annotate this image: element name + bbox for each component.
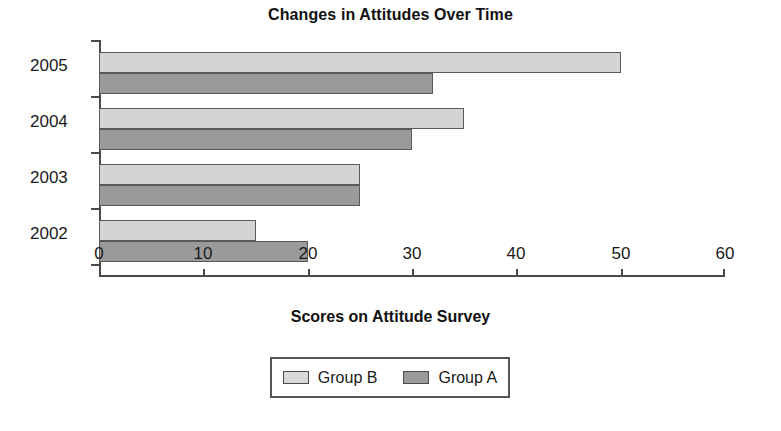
chart-title: Changes in Attitudes Over Time — [0, 6, 781, 24]
bar-2003-group-b — [99, 164, 360, 185]
x-tick-label-10: 10 — [173, 244, 233, 264]
plot-area — [99, 40, 725, 277]
x-axis-tick — [723, 269, 725, 277]
x-tick-label-30: 30 — [382, 244, 442, 264]
legend-swatch-group-b — [283, 371, 309, 384]
chart-legend: Group B Group A — [270, 357, 510, 398]
x-axis-tick — [412, 269, 414, 277]
bar-2004-group-a — [99, 129, 412, 150]
y-axis-tick — [91, 40, 100, 42]
y-category-label-2005: 2005 — [30, 56, 90, 76]
legend-label-group-a: Group A — [438, 369, 497, 387]
bar-2005-group-a — [99, 73, 433, 94]
x-axis-tick — [99, 269, 101, 277]
x-tick-label-20: 20 — [278, 244, 338, 264]
legend-label-group-b: Group B — [318, 369, 378, 387]
x-tick-label-0: 0 — [69, 244, 129, 264]
y-category-label-2002: 2002 — [30, 224, 90, 244]
bar-2004-group-b — [99, 108, 464, 129]
x-axis-tick — [308, 269, 310, 277]
x-tick-label-40: 40 — [486, 244, 546, 264]
y-axis-tick — [91, 152, 100, 154]
y-category-label-2003: 2003 — [30, 168, 90, 188]
bar-2002-group-b — [99, 220, 256, 241]
y-axis-tick — [91, 208, 100, 210]
y-axis-tick — [91, 96, 100, 98]
x-axis-tick — [621, 269, 623, 277]
x-axis-tick — [516, 269, 518, 277]
x-axis-title: Scores on Attitude Survey — [0, 308, 781, 326]
x-axis-tick — [203, 269, 205, 277]
legend-entry-group-b: Group B — [283, 369, 378, 387]
legend-entry-group-a: Group A — [403, 369, 497, 387]
x-tick-label-50: 50 — [591, 244, 651, 264]
y-category-label-2004: 2004 — [30, 112, 90, 132]
bar-2005-group-b — [99, 52, 621, 73]
legend-swatch-group-a — [403, 371, 429, 384]
bar-2003-group-a — [99, 185, 360, 206]
x-tick-label-60: 60 — [695, 244, 755, 264]
y-axis-tick — [91, 264, 100, 266]
